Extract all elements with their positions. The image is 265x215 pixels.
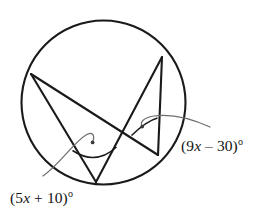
- leader-line-to-bottom-angle: [43, 133, 94, 176]
- angle-label-bottom-prefix: (5: [10, 189, 23, 207]
- leader-arrowhead-lowerright-angle: [140, 125, 144, 129]
- angle-label-lowerright: (9x – 30)o: [181, 136, 243, 155]
- chord-upperleft-to-bottom: [31, 74, 96, 182]
- angle-label-lowerright-variable: x: [193, 137, 201, 154]
- circle-diagram-canvas: (5x + 10)o (9x – 30)o: [0, 0, 265, 215]
- angle-label-bottom-degree: o: [68, 188, 73, 199]
- angle-arc-at-lowerright-vertex: [132, 118, 158, 136]
- geometry-figure: (5x + 10)o (9x – 30)o: [0, 0, 265, 215]
- angle-label-bottom-variable: x: [22, 189, 30, 206]
- angle-label-bottom-suffix: + 10): [30, 189, 68, 207]
- angle-label-lowerright-suffix: – 30): [201, 137, 238, 155]
- chord-upperright-to-lowerright: [158, 57, 162, 155]
- chord-upperleft-to-lowerright: [31, 74, 158, 155]
- angle-label-lowerright-prefix: (9: [181, 137, 194, 155]
- leader-arrowhead-bottom-angle: [91, 141, 95, 145]
- leader-line-to-lowerright-angle: [141, 115, 210, 127]
- angle-label-lowerright-degree: o: [238, 136, 243, 147]
- angle-label-bottom: (5x + 10)o: [10, 188, 73, 207]
